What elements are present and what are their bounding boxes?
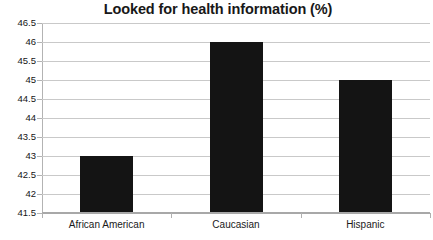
y-axis-tick (37, 118, 42, 119)
y-axis-tick-label: 45 (2, 75, 36, 85)
bar[interactable] (210, 42, 263, 213)
y-axis-tick-labels: 46.54645.54544.54443.54342.54241.5 (0, 0, 36, 240)
y-axis-tick-label: 46.5 (2, 18, 36, 28)
x-axis-line (42, 212, 430, 213)
y-axis-tick-label: 42.5 (2, 170, 36, 180)
gridline (42, 213, 430, 214)
y-axis-tick (37, 61, 42, 62)
y-axis-tick-label: 45.5 (2, 56, 36, 66)
y-axis-tick (37, 156, 42, 157)
y-axis-tick-label: 42 (2, 189, 36, 199)
y-axis-tick-label: 44 (2, 113, 36, 123)
y-axis-tick (37, 42, 42, 43)
y-axis-tick (37, 175, 42, 176)
bar-chart: Looked for health information (%) 46.546… (0, 0, 433, 240)
x-axis-category-label: Caucasian (171, 219, 300, 231)
y-axis-tick (37, 99, 42, 100)
x-axis-category-label: African American (42, 219, 171, 231)
y-axis-tick (37, 194, 42, 195)
x-axis-tick (171, 213, 172, 218)
y-axis-tick-label: 43 (2, 151, 36, 161)
x-axis-tick (42, 213, 43, 218)
chart-title: Looked for health information (%) (42, 1, 394, 17)
bar[interactable] (80, 156, 133, 213)
y-axis-tick (37, 23, 42, 24)
y-axis-tick-label: 44.5 (2, 94, 36, 104)
y-axis-tick (37, 80, 42, 81)
bar[interactable] (339, 80, 392, 213)
x-axis-tick (301, 213, 302, 218)
y-axis-tick-label: 43.5 (2, 132, 36, 142)
x-axis-category-label: Hispanic (301, 219, 430, 231)
plot-area (42, 23, 430, 213)
y-axis-tick-label: 46 (2, 37, 36, 47)
x-axis-tick (430, 213, 431, 218)
y-axis-tick-label: 41.5 (2, 208, 36, 218)
gridline (42, 23, 430, 24)
y-axis-tick (37, 137, 42, 138)
